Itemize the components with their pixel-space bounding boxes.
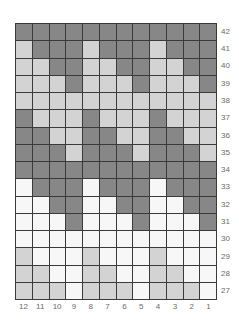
chart-cell (167, 266, 184, 283)
chart-cell (117, 231, 134, 248)
chart-cell (200, 110, 217, 127)
chart-cell (133, 41, 150, 58)
chart-cell (16, 197, 33, 214)
column-label: 4 (150, 303, 167, 311)
chart-cell (167, 231, 184, 248)
chart-cell (167, 41, 184, 58)
chart-cell (33, 162, 50, 179)
chart-cell (83, 283, 100, 300)
chart-cell (83, 197, 100, 214)
chart-cell (66, 145, 83, 162)
chart-cell (133, 266, 150, 283)
chart-cell (200, 197, 217, 214)
chart-cell (100, 231, 117, 248)
column-label: 2 (183, 303, 200, 311)
chart-cell (16, 76, 33, 93)
knitting-chart: 42414039383736353433323130292827 1211109… (15, 23, 217, 300)
row-label: 35 (221, 144, 230, 161)
chart-cell (33, 41, 50, 58)
chart-cell (100, 179, 117, 196)
chart-cell (133, 248, 150, 265)
chart-cell (167, 128, 184, 145)
chart-cell (16, 24, 33, 41)
row-label: 28 (221, 265, 230, 282)
chart-cell (66, 76, 83, 93)
chart-cell (200, 128, 217, 145)
chart-cell (16, 110, 33, 127)
chart-cell (83, 110, 100, 127)
chart-cell (150, 93, 167, 110)
chart-cell (184, 110, 201, 127)
column-label: 5 (133, 303, 150, 311)
chart-cell (50, 59, 67, 76)
chart-cell (50, 93, 67, 110)
chart-cell (33, 93, 50, 110)
chart-cell (50, 110, 67, 127)
chart-cell (16, 128, 33, 145)
chart-cell (200, 266, 217, 283)
chart-cell (33, 76, 50, 93)
chart-cell (133, 145, 150, 162)
chart-cell (150, 179, 167, 196)
chart-cell (133, 231, 150, 248)
chart-cell (16, 266, 33, 283)
chart-cell (200, 179, 217, 196)
chart-cell (50, 24, 67, 41)
column-label: 7 (99, 303, 116, 311)
chart-cell (184, 231, 201, 248)
chart-cell (66, 179, 83, 196)
chart-cell (150, 162, 167, 179)
chart-cell (66, 59, 83, 76)
chart-cell (133, 59, 150, 76)
chart-cell (16, 214, 33, 231)
chart-cell (50, 231, 67, 248)
chart-cell (184, 179, 201, 196)
row-label: 37 (221, 110, 230, 127)
column-label: 1 (200, 303, 217, 311)
row-label: 31 (221, 213, 230, 230)
chart-cell (150, 231, 167, 248)
chart-cell (117, 76, 134, 93)
chart-cell (100, 41, 117, 58)
chart-cell (167, 145, 184, 162)
column-label: 9 (66, 303, 83, 311)
chart-cell (200, 145, 217, 162)
chart-cell (50, 266, 67, 283)
chart-cell (100, 110, 117, 127)
chart-cell (167, 162, 184, 179)
chart-cell (150, 24, 167, 41)
chart-cell (167, 110, 184, 127)
chart-cell (184, 266, 201, 283)
chart-cell (133, 162, 150, 179)
chart-cell (150, 41, 167, 58)
chart-cell (133, 24, 150, 41)
chart-cell (184, 93, 201, 110)
chart-cell (33, 283, 50, 300)
chart-cell (167, 179, 184, 196)
chart-cell (117, 248, 134, 265)
chart-cell (83, 24, 100, 41)
chart-cell (117, 214, 134, 231)
chart-cell (83, 93, 100, 110)
chart-cell (167, 59, 184, 76)
chart-cell (50, 179, 67, 196)
chart-cell (167, 24, 184, 41)
chart-grid (15, 23, 217, 300)
chart-cell (184, 214, 201, 231)
chart-cell (150, 283, 167, 300)
row-label: 29 (221, 248, 230, 265)
chart-cell (100, 76, 117, 93)
chart-cell (200, 76, 217, 93)
chart-cell (33, 231, 50, 248)
chart-cell (200, 93, 217, 110)
chart-cell (117, 41, 134, 58)
chart-cell (50, 197, 67, 214)
row-label: 33 (221, 179, 230, 196)
chart-cell (100, 266, 117, 283)
row-label: 30 (221, 231, 230, 248)
chart-cell (150, 128, 167, 145)
chart-cell (184, 128, 201, 145)
chart-cell (200, 231, 217, 248)
chart-cell (150, 197, 167, 214)
chart-cell (16, 231, 33, 248)
